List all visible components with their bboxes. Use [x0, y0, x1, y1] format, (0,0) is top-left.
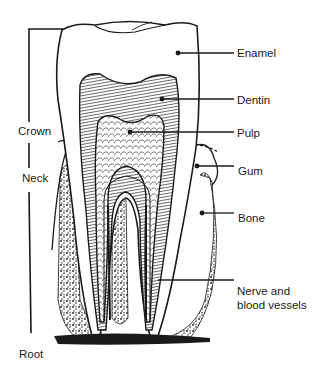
label-crown: Crown	[18, 124, 51, 138]
label-nerve-blood-vessels: Nerve and blood vessels	[237, 284, 307, 312]
label-enamel: Enamel	[237, 46, 276, 60]
label-root: Root	[19, 347, 43, 361]
label-bone: Bone	[238, 211, 265, 225]
label-dentin: Dentin	[237, 93, 270, 107]
label-gum: Gum	[238, 164, 263, 178]
label-pulp: Pulp	[237, 126, 260, 140]
label-neck: Neck	[22, 171, 48, 185]
